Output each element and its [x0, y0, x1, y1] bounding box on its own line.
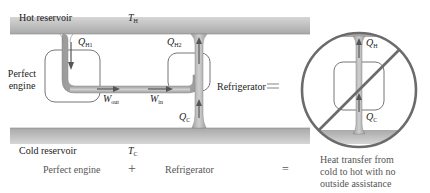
w-in-sub: in	[158, 99, 163, 105]
caption-result-line3: outside assistance	[320, 178, 425, 190]
diagram-canvas: Hot reservoir TH QH1 QH2 Perfect engine …	[0, 0, 430, 193]
engine-label-line2: engine	[5, 80, 39, 92]
cold-heat-refrigerator-label: QC	[179, 112, 190, 123]
caption-result-line1: Heat transfer from	[320, 154, 425, 166]
q-h2-sub: H2	[174, 42, 181, 48]
hot-temp-sub: H	[134, 18, 138, 24]
caption-equals: =	[282, 163, 289, 175]
forbidden-q-h-sub: H	[373, 43, 377, 49]
cold-temperature-label: TC	[128, 146, 138, 157]
hot-temperature-label: TH	[128, 13, 138, 24]
work-in-label: Win	[150, 94, 163, 105]
cold-reservoir	[10, 128, 310, 144]
q-c-sub: C	[186, 117, 190, 123]
forbidden-q-c-sub: C	[373, 117, 377, 123]
engine-label-line1: Perfect	[5, 68, 39, 80]
caption-result-line2: cold to hot with no	[320, 166, 425, 178]
caption-plus: +	[128, 162, 136, 176]
q-h1-sub: H1	[85, 42, 92, 48]
caption-perfect-engine: Perfect engine	[43, 165, 100, 175]
hot-reservoir-label: Hot reservoir	[19, 13, 72, 23]
forbidden-heat-hot-label: QH	[366, 38, 378, 49]
engine-device-outline	[45, 50, 100, 102]
heat-out-refrigerator-label: QH2	[167, 37, 182, 48]
refrigerator-device-outline	[168, 53, 210, 91]
w-out-sub: out	[111, 99, 119, 105]
equals-sign	[267, 84, 279, 88]
caption-result: Heat transfer from cold to hot with no o…	[320, 154, 425, 190]
refrigerator-label: Refrigerator	[217, 82, 266, 92]
cold-reservoir-label: Cold reservoir	[19, 146, 77, 156]
arrows	[68, 37, 202, 118]
forbidden-device	[300, 23, 420, 147]
heat-in-engine-label: QH1	[78, 37, 93, 48]
caption-refrigerator: Refrigerator	[165, 165, 214, 175]
work-out-label: Wout	[103, 94, 119, 105]
cold-temp-sub: C	[134, 151, 138, 157]
forbidden-heat-cold-label: QC	[366, 112, 377, 123]
engine-label: Perfect engine	[5, 68, 39, 92]
